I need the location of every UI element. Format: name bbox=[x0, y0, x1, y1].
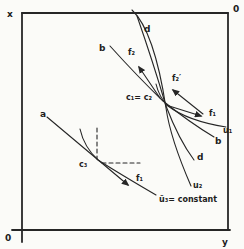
diagram-svg: x00yabdf₂c₁= c₂f₂′f₁u₁bdu₂ū₃= constantc₃… bbox=[0, 0, 244, 249]
label-b-top: b bbox=[99, 43, 106, 53]
label-x-axis: x bbox=[7, 9, 13, 19]
label-c3: c₃ bbox=[79, 160, 88, 169]
label-d-right: d bbox=[197, 152, 203, 162]
label-d-top: d bbox=[144, 24, 150, 34]
figure-canvas: x00yabdf₂c₁= c₂f₂′f₁u₁bdu₂ū₃= constantc₃… bbox=[0, 0, 244, 249]
label-y-axis: y bbox=[222, 237, 228, 247]
label-u1: u₁ bbox=[223, 126, 233, 135]
label-c1-c2: c₁= c₂ bbox=[126, 93, 152, 102]
label-b-right: b bbox=[215, 136, 222, 146]
line-a bbox=[47, 117, 128, 185]
label-a: a bbox=[40, 109, 46, 119]
vector-f2-prime bbox=[173, 90, 203, 114]
curve-d bbox=[137, 16, 194, 160]
label-u3-constant: ū₃= constant bbox=[159, 195, 217, 204]
label-origin-top: 0 bbox=[233, 4, 239, 14]
label-f2-prime: f₂′ bbox=[172, 74, 181, 83]
diagram-labels: x00yabdf₂c₁= c₂f₂′f₁u₁bdu₂ū₃= constantc₃… bbox=[5, 4, 239, 247]
vector-f1-upper bbox=[166, 105, 201, 116]
label-u2: u₂ bbox=[193, 181, 203, 190]
diagram-strokes bbox=[12, 10, 230, 242]
curve-u3 bbox=[80, 129, 156, 195]
label-f2: f₂ bbox=[128, 48, 135, 57]
label-f1-lower: f₁ bbox=[136, 174, 143, 183]
label-f1-upper: f₁ bbox=[209, 109, 216, 118]
label-origin-bottom: 0 bbox=[5, 233, 11, 243]
